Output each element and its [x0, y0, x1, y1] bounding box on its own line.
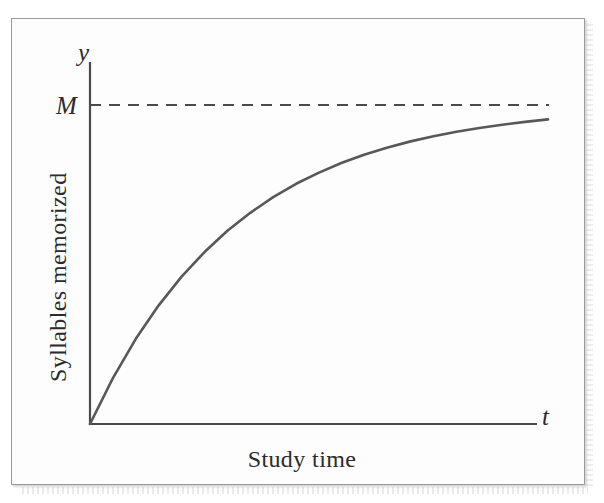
y-axis-symbol-label: y [78, 40, 89, 65]
y-axis-title: Syllables memorized [46, 82, 76, 382]
learning-curve-plot [0, 0, 604, 503]
x-axis-title: Study time [0, 447, 604, 471]
learning-curve-line [90, 119, 548, 424]
x-axis-symbol-label: t [542, 404, 549, 429]
figure-canvas: y M t Study time Syllables memorized [0, 0, 604, 503]
